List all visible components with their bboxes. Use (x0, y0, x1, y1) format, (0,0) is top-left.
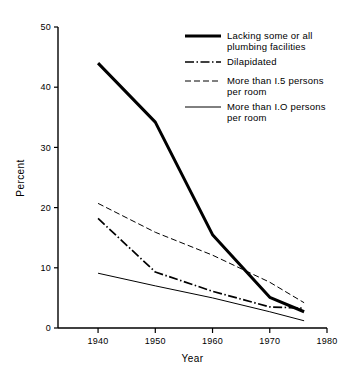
legend-label-3: More than I.O persons (227, 101, 326, 112)
y-tick-label: 20 (40, 203, 51, 213)
chart-container: 01020304050 Percent 19401950196019701980… (0, 0, 350, 377)
x-tick-label: 1940 (87, 336, 108, 346)
x-tick-label: 1950 (145, 336, 166, 346)
x-tick-label: 1970 (259, 336, 280, 346)
legend-label-2: More than I.5 persons (227, 75, 324, 86)
line-chart: 01020304050 Percent 19401950196019701980… (0, 0, 350, 377)
series-line-1 (98, 218, 304, 308)
legend-label-2-line2: per room (227, 86, 267, 97)
y-axis-ticks: 01020304050 (40, 22, 58, 333)
y-tick-label: 40 (40, 82, 51, 92)
x-tick-label: 1980 (316, 336, 337, 346)
y-axis-group: 01020304050 Percent (15, 22, 58, 333)
x-axis-ticks: 19401950196019701980 (87, 328, 337, 346)
y-tick-label: 0 (46, 323, 51, 333)
y-axis-title: Percent (15, 159, 26, 196)
legend-label-0: Lacking some or all (227, 30, 313, 41)
y-tick-label: 10 (40, 263, 51, 273)
y-tick-label: 50 (40, 22, 51, 32)
y-tick-label: 30 (40, 143, 51, 153)
legend-label-3-line2: per room (227, 112, 267, 123)
legend-label-1: Dilapidated (227, 56, 277, 67)
x-axis-title: Year (182, 353, 204, 364)
x-tick-label: 1960 (202, 336, 223, 346)
x-axis-group: 19401950196019701980 Year (58, 328, 338, 364)
chart-legend: Lacking some or allplumbing facilitiesDi… (185, 30, 326, 123)
legend-label-0-line2: plumbing facilities (227, 41, 306, 52)
series-line-3 (98, 273, 304, 321)
